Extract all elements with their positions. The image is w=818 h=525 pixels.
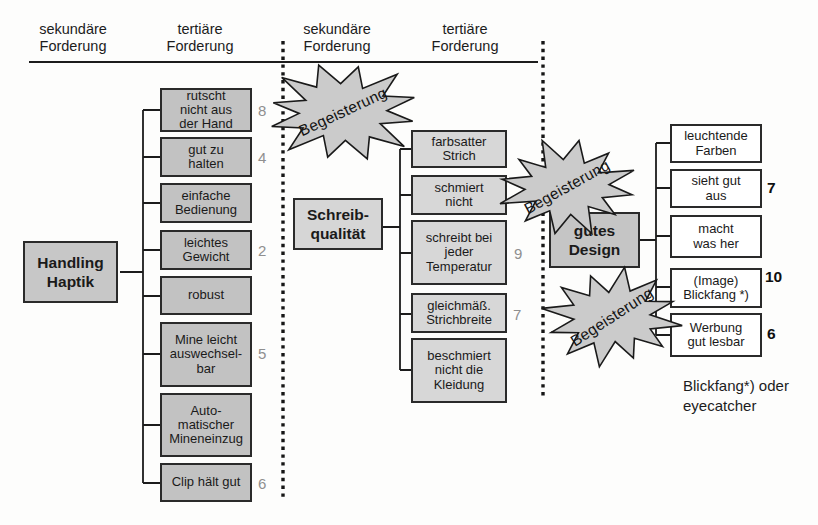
tertiary-box: sieht gut aus [670,169,762,208]
starburst-shape [542,267,682,367]
excitement-starburst-3: Begeisterung [542,267,682,367]
tertiary-box: farbsatter Strich [411,130,507,168]
secondary-box-handling-haptik: Handling Haptik [23,241,118,303]
tertiary-box: schreibt bei jeder Temperatur [411,220,507,285]
tree-branches-group3 [640,143,670,335]
score-label: 6 [258,475,266,492]
tertiary-box: rutscht nicht aus der Hand [160,88,252,132]
starburst-shape [272,65,415,159]
starburst-layer: Begeisterung Begeisterung Begeisterung [0,0,818,525]
starburst-label: Begeisterung [567,284,656,350]
tertiary-box: leichtes Gewicht [160,230,252,270]
tertiary-box: leuchtende Farben [670,124,762,163]
tertiary-box: einfache Bedienung [160,183,252,223]
tertiary-box: robust [160,276,252,315]
score-label: 5 [258,345,266,362]
column-header-secondary-1: sekundäre Forderung [23,21,123,55]
score-label: 10 [765,268,782,286]
tertiary-box: schmiert nicht [411,175,507,215]
score-label: 9 [514,245,522,262]
column-header-tertiary-1: tertiäre Forderung [150,21,250,55]
tertiary-box: Auto- matischer Mineneinzug [160,393,252,457]
score-label: 4 [258,149,266,166]
tertiary-box: (Image) Blickfang *) [670,268,762,308]
secondary-box-gutes-design: gutes Design [549,212,640,268]
score-label: 7 [513,306,521,323]
tree-branches-group2 [383,149,411,370]
column-header-secondary-2: sekundäre Forderung [287,21,387,55]
score-label: 7 [767,179,776,197]
score-label: 6 [767,325,776,343]
tertiary-box: beschmiert nicht die Kleidung [411,338,507,403]
tertiary-box: Werbung gut lesbar [670,313,762,357]
secondary-box-schreibqualitaet: Schreib- qualität [293,198,383,250]
qfd-requirements-diagram: sekundäre Forderung tertiäre Forderung s… [0,0,818,525]
tertiary-box: gut zu halten [160,137,252,177]
connector-lines [0,0,818,525]
score-label: 8 [258,102,266,119]
tertiary-box: Clip hält gut [160,463,252,502]
tree-branches-group1 [120,110,160,483]
column-header-tertiary-2: tertiäre Forderung [415,21,515,55]
score-label: 2 [258,242,266,259]
tertiary-box: macht was her [670,215,762,258]
starburst-label: Begeisterung [296,84,389,140]
starburst-label: Begeisterung [521,156,612,217]
tertiary-box: Mine leicht auswechsel- bar [160,322,252,387]
tertiary-box: gleichmäß. Strichbreite [411,293,507,333]
excitement-starburst-1: Begeisterung [272,65,415,159]
footnote-blickfang: Blickfang*) oder eyecatcher [683,376,789,415]
